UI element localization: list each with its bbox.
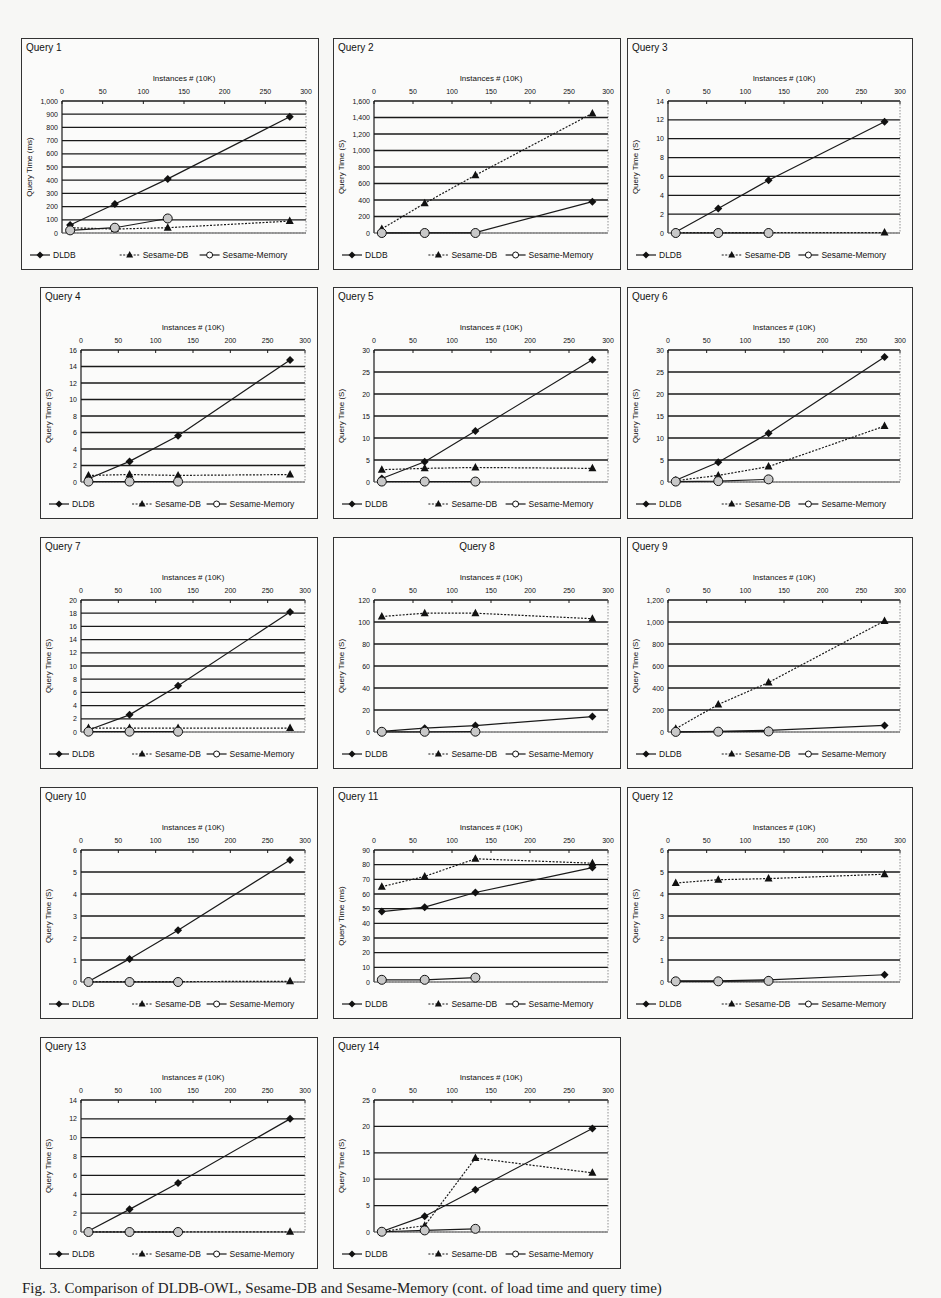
y-axis-label: Query Time (ms) <box>25 137 34 197</box>
svg-text:10: 10 <box>69 1134 77 1141</box>
legend-label: Sesame-DB <box>451 1249 497 1259</box>
series-line-dldb <box>382 202 593 233</box>
svg-text:700: 700 <box>46 137 58 144</box>
svg-text:100: 100 <box>446 337 458 344</box>
svg-text:10: 10 <box>362 964 370 971</box>
svg-text:12: 12 <box>69 380 77 387</box>
svg-text:18: 18 <box>69 610 77 617</box>
svg-text:30: 30 <box>362 935 370 942</box>
svg-text:6: 6 <box>660 847 664 854</box>
svg-text:200: 200 <box>224 1087 236 1094</box>
series-line-sesame-db <box>382 113 593 229</box>
svg-text:250: 250 <box>855 337 867 344</box>
svg-text:8: 8 <box>73 413 77 420</box>
legend-label: DLDB <box>365 499 388 509</box>
svg-text:12: 12 <box>656 116 664 123</box>
svg-text:0: 0 <box>660 729 664 736</box>
series-line-sesame-db <box>382 467 593 469</box>
svg-text:50: 50 <box>114 1087 122 1094</box>
svg-text:0: 0 <box>366 729 370 736</box>
svg-text:2: 2 <box>73 462 77 469</box>
svg-text:50: 50 <box>703 837 711 844</box>
svg-text:70: 70 <box>362 876 370 883</box>
svg-text:5: 5 <box>366 457 370 464</box>
x-axis-label: Instances # (10K) <box>460 323 523 332</box>
svg-text:300: 300 <box>300 88 312 95</box>
series-line-dldb <box>70 117 290 225</box>
svg-text:6: 6 <box>73 429 77 436</box>
svg-text:500: 500 <box>46 164 58 171</box>
svg-text:6: 6 <box>73 1172 77 1179</box>
chart-title: Query 14 <box>338 1041 380 1052</box>
y-axis-label: Query Time (S) <box>337 1139 346 1194</box>
svg-text:0: 0 <box>660 979 664 986</box>
chart-title: Query 6 <box>632 291 668 302</box>
svg-text:150: 150 <box>778 587 790 594</box>
svg-text:600: 600 <box>46 150 58 157</box>
legend-label: DLDB <box>365 250 388 260</box>
legend-label: Sesame-DB <box>143 250 189 260</box>
svg-text:0: 0 <box>660 479 664 486</box>
chart-panel-q11: Query 11Instances # (10K)050100150200250… <box>333 787 621 1019</box>
svg-text:100: 100 <box>150 337 162 344</box>
series-line-dldb <box>676 725 885 731</box>
svg-text:10: 10 <box>656 435 664 442</box>
svg-text:0: 0 <box>366 979 370 986</box>
svg-text:200: 200 <box>524 337 536 344</box>
svg-text:15: 15 <box>362 1149 370 1156</box>
y-axis-label: Query Time (S) <box>631 639 640 694</box>
svg-text:150: 150 <box>485 587 497 594</box>
legend-label: DLDB <box>365 999 388 1009</box>
svg-text:150: 150 <box>187 1087 199 1094</box>
chart-panel-q2: Query 2Instances # (10K)0501001502002503… <box>333 38 621 270</box>
svg-text:250: 250 <box>855 88 867 95</box>
x-axis-label: Instances # (10K) <box>753 323 816 332</box>
series-line-sesame-db <box>676 426 885 481</box>
chart-panel-q3: Query 3Instances # (10K)0501001502002503… <box>627 38 913 270</box>
legend-label: Sesame-Memory <box>230 1249 295 1259</box>
svg-text:400: 400 <box>46 177 58 184</box>
legend-label: Sesame-Memory <box>230 999 295 1009</box>
svg-text:150: 150 <box>187 337 199 344</box>
legend-label: DLDB <box>72 999 95 1009</box>
legend-label: Sesame-DB <box>745 250 791 260</box>
chart-title: Query 9 <box>632 541 668 552</box>
legend-label: Sesame-DB <box>745 499 791 509</box>
svg-text:250: 250 <box>563 337 575 344</box>
legend-label: DLDB <box>72 1249 95 1259</box>
svg-text:2: 2 <box>660 935 664 942</box>
y-axis-label: Query Time (S) <box>44 389 53 444</box>
legend-label: Sesame-Memory <box>529 499 594 509</box>
svg-text:14: 14 <box>69 636 77 643</box>
legend-label: Sesame-DB <box>155 749 201 759</box>
svg-text:0: 0 <box>666 337 670 344</box>
svg-text:1,400: 1,400 <box>352 114 370 121</box>
svg-text:50: 50 <box>409 1087 417 1094</box>
svg-text:200: 200 <box>524 1087 536 1094</box>
svg-text:100: 100 <box>137 88 149 95</box>
svg-text:10: 10 <box>362 435 370 442</box>
svg-text:0: 0 <box>666 837 670 844</box>
svg-text:100: 100 <box>150 1087 162 1094</box>
svg-text:300: 300 <box>894 337 906 344</box>
svg-text:20: 20 <box>69 597 77 604</box>
series-line-dldb <box>676 975 885 981</box>
svg-text:10: 10 <box>656 135 664 142</box>
svg-text:2: 2 <box>73 715 77 722</box>
legend-label: Sesame-Memory <box>821 999 886 1009</box>
svg-text:100: 100 <box>739 837 751 844</box>
legend-label: Sesame-DB <box>745 999 791 1009</box>
svg-text:300: 300 <box>894 837 906 844</box>
svg-text:0: 0 <box>666 587 670 594</box>
svg-text:0: 0 <box>79 837 83 844</box>
svg-text:200: 200 <box>817 837 829 844</box>
svg-text:6: 6 <box>73 847 77 854</box>
svg-text:0: 0 <box>372 337 376 344</box>
svg-text:250: 250 <box>563 587 575 594</box>
line-chart: Query 13Instances # (10K)050100150200250… <box>41 1038 317 1268</box>
svg-text:300: 300 <box>299 837 311 844</box>
svg-text:4: 4 <box>660 192 664 199</box>
legend-label: Sesame-Memory <box>529 1249 594 1259</box>
svg-text:16: 16 <box>69 623 77 630</box>
svg-text:20: 20 <box>362 391 370 398</box>
